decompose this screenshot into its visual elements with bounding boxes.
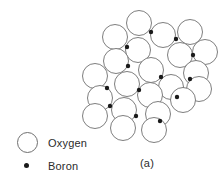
oxygen-atom-circle — [103, 25, 128, 50]
oxygen-atom-circle — [104, 49, 129, 74]
boron-atom-dot — [126, 64, 130, 68]
filled-dot-icon — [24, 163, 29, 168]
oxygen-atom-circle — [171, 88, 196, 113]
boron-atom-dot — [191, 53, 195, 57]
oxygen-atom-circle — [115, 72, 140, 97]
legend-label-boron: Boron — [48, 155, 78, 177]
boron-atom-dot — [188, 77, 192, 81]
boron-atom-dot — [174, 37, 178, 41]
legend-label-oxygen: Oxygen — [48, 132, 87, 154]
boron-atom-dot — [108, 104, 112, 108]
boron-atom-dot — [137, 88, 141, 92]
oxygen-atom-circle — [127, 11, 152, 36]
boron-atom-dot — [158, 119, 162, 123]
legend-symbol-boron — [14, 155, 48, 177]
boron-atom-dot — [105, 86, 109, 90]
boron-atom-dot — [175, 95, 179, 99]
open-circle-icon — [17, 132, 38, 153]
legend-symbol-oxygen — [14, 132, 48, 154]
oxygen-atom-circle — [142, 118, 167, 143]
boron-atom-dot — [125, 45, 129, 49]
legend-item-oxygen: Oxygen — [14, 132, 87, 154]
oxygen-atom-circle — [151, 23, 176, 48]
legend: Oxygen Boron — [14, 130, 124, 178]
oxygen-atom-circle — [83, 104, 108, 129]
boron-atom-dot — [134, 114, 138, 118]
panel-caption: (a) — [140, 157, 154, 169]
oxygen-atom-circle — [83, 64, 108, 89]
boron-atom-dot — [149, 30, 153, 34]
legend-item-boron: Boron — [14, 155, 78, 177]
boron-atom-dot — [159, 75, 163, 79]
figure-container: Oxygen Boron (a) — [0, 0, 224, 179]
